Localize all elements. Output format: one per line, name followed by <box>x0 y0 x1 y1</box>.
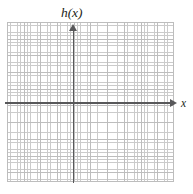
y-axis-label: h(x) <box>61 6 82 20</box>
x-axis-label: x <box>181 98 186 110</box>
coordinate-grid-figure: h(x) x <box>0 0 193 194</box>
y-axis-line <box>73 28 75 183</box>
y-axis-arrow-icon <box>69 24 77 31</box>
x-axis-line <box>5 102 175 104</box>
grid-bottom-edge <box>7 181 174 182</box>
x-axis-arrow-icon <box>170 99 177 107</box>
